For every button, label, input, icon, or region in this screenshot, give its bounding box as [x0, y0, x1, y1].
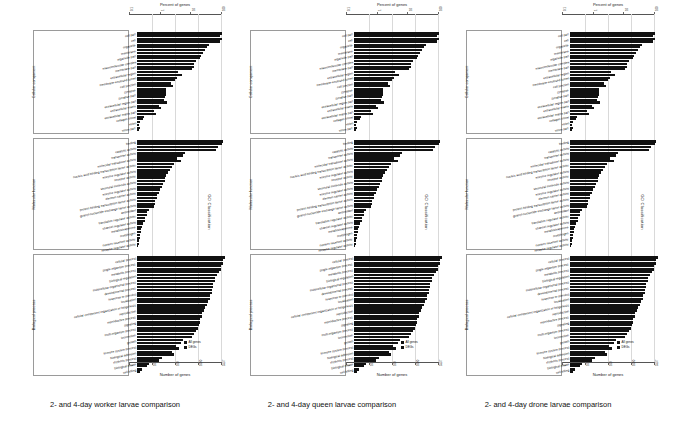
legend-label: All genes: [622, 340, 634, 344]
legend: All genesDEGs: [184, 340, 201, 350]
top-axis-tick-label: 0.1: [347, 7, 351, 11]
legend-item: All genes: [184, 340, 201, 344]
panel-caption-2: 2- and 4-day drone larvae comparison: [433, 400, 663, 409]
category-row: cell killing: [250, 368, 438, 374]
bar-degs: [354, 129, 356, 131]
legend-swatch: [184, 346, 187, 349]
legend-label: DEGs: [406, 345, 414, 349]
bar-group: [137, 368, 221, 374]
top-axis-tick: [129, 12, 130, 15]
panel-1: Percent of genes0.111010011010010005537N…: [217, 0, 447, 423]
top-axis-tick: [190, 12, 191, 15]
go-classification-axis-title: GO Classification: [208, 194, 213, 230]
bar-group: [354, 368, 438, 374]
bar-degs: [570, 129, 572, 131]
go-section-1: Molecular functionbindingcatalytic activ…: [250, 138, 438, 250]
bar-group: [354, 126, 438, 132]
bar-degs: [570, 371, 573, 373]
bar-degs: [354, 371, 357, 373]
legend-swatch: [617, 346, 620, 349]
panel-caption-0: 2- and 4-day worker larvae comparison: [0, 400, 230, 409]
category-row: virion part: [250, 126, 438, 132]
go-section-1: Molecular functionbindingcatalytic activ…: [466, 138, 654, 250]
plot-area: Percent of genes0.111010011010010005537N…: [242, 14, 438, 380]
legend-item: All genes: [401, 340, 418, 344]
bar-group: [354, 242, 438, 248]
bar-group: [570, 368, 654, 374]
bar-group: [137, 242, 221, 248]
top-axis-title: Percent of genes: [346, 2, 438, 7]
category-row: receptor regulator activity: [466, 242, 654, 248]
top-axis-tick: [346, 12, 347, 15]
category-rows: bindingcatalytic activitytransporter act…: [33, 140, 221, 248]
bar-degs: [137, 371, 140, 373]
category-row: virion part: [33, 126, 221, 132]
panel-0: Percent of genes0.111010011010010005537N…: [0, 0, 230, 423]
top-axis-tick-label: 1: [161, 9, 165, 11]
category-label: virion part: [339, 127, 354, 133]
go-classification-axis-title: GO Classification: [425, 194, 430, 230]
category-rows: cellular processsingle-organism processm…: [466, 256, 654, 374]
top-axis-tick-label: 1: [378, 9, 382, 11]
top-axis-title: Percent of genes: [129, 2, 221, 7]
plot-area: Percent of genes0.111010011010010005537N…: [25, 14, 221, 380]
panel-2: Percent of genes0.111010011010010005537N…: [433, 0, 663, 423]
category-label: virion part: [122, 127, 137, 133]
go-classification-axis-title: GO Classification: [641, 194, 646, 230]
bar-degs: [570, 245, 571, 247]
top-axis-tick-label: 100: [655, 6, 659, 11]
category-label: receptor regulator activity: [535, 243, 571, 253]
bar-degs: [137, 245, 138, 247]
top-axis-tick: [593, 12, 594, 15]
bar-group: [137, 126, 221, 132]
go-section-0: Cellular componentcell partcellorganelle…: [250, 30, 438, 134]
top-axis-tick: [562, 12, 563, 15]
category-rows: cellular processsingle-organism processm…: [33, 256, 221, 374]
category-rows: cell partcellorganellemembraneorganelle …: [250, 32, 438, 132]
category-label: cell killing: [340, 369, 355, 375]
top-axis-tick: [623, 12, 624, 15]
top-axis-tick-label: 10: [409, 7, 413, 10]
go-section-2: Biological processcellular processsingle…: [33, 254, 221, 376]
legend-label: DEGs: [622, 345, 630, 349]
category-rows: cell partcellorganellemembraneorganelle …: [466, 32, 654, 132]
legend: All genesDEGs: [617, 340, 634, 350]
category-rows: bindingcatalytic activitytransporter act…: [250, 140, 438, 248]
legend-item: DEGs: [184, 345, 201, 349]
legend-swatch: [184, 341, 187, 344]
top-axis-tick-label: 10: [625, 7, 629, 10]
top-axis-tick: [407, 12, 408, 15]
legend-swatch: [617, 341, 620, 344]
category-label: virion part: [555, 127, 570, 133]
bar-degs: [354, 245, 355, 247]
legend-item: All genes: [617, 340, 634, 344]
go-section-2: Biological processcellular processsingle…: [250, 254, 438, 376]
legend-label: All genes: [406, 340, 418, 344]
top-axis-tick-label: 0.1: [563, 7, 567, 11]
category-label: cell killing: [556, 369, 571, 375]
category-row: receptor regulator activity: [250, 242, 438, 248]
top-axis-tick-label: 1: [594, 9, 598, 11]
legend-swatch: [401, 346, 404, 349]
category-rows: cell partcellorganellemembraneorganelle …: [33, 32, 221, 132]
go-section-0: Cellular componentcell partcellorganelle…: [33, 30, 221, 134]
plot-area: Percent of genes0.111010011010010005537N…: [458, 14, 654, 380]
bar-degs: [137, 129, 139, 131]
legend-swatch: [401, 341, 404, 344]
legend-label: All genes: [189, 340, 201, 344]
category-label: cell killing: [123, 369, 138, 375]
go-section-0: Cellular componentcell partcellorganelle…: [466, 30, 654, 134]
category-label: receptor regulator activity: [102, 243, 138, 253]
legend: All genesDEGs: [401, 340, 418, 350]
category-row: cell killing: [33, 368, 221, 374]
top-axis-tick-label: 10: [192, 7, 196, 10]
category-row: virion part: [466, 126, 654, 132]
figure-root: Percent of genes0.111010011010010005537N…: [0, 0, 690, 423]
go-section-1: Molecular functionbindingcatalytic activ…: [33, 138, 221, 250]
panel-caption-1: 2- and 4-day queen larvae comparison: [217, 400, 447, 409]
legend-item: DEGs: [617, 345, 634, 349]
top-axis-title: Percent of genes: [562, 2, 654, 7]
top-axis-tick: [160, 12, 161, 15]
top-axis-tick-label: 0.1: [130, 7, 134, 11]
legend-label: DEGs: [189, 345, 197, 349]
